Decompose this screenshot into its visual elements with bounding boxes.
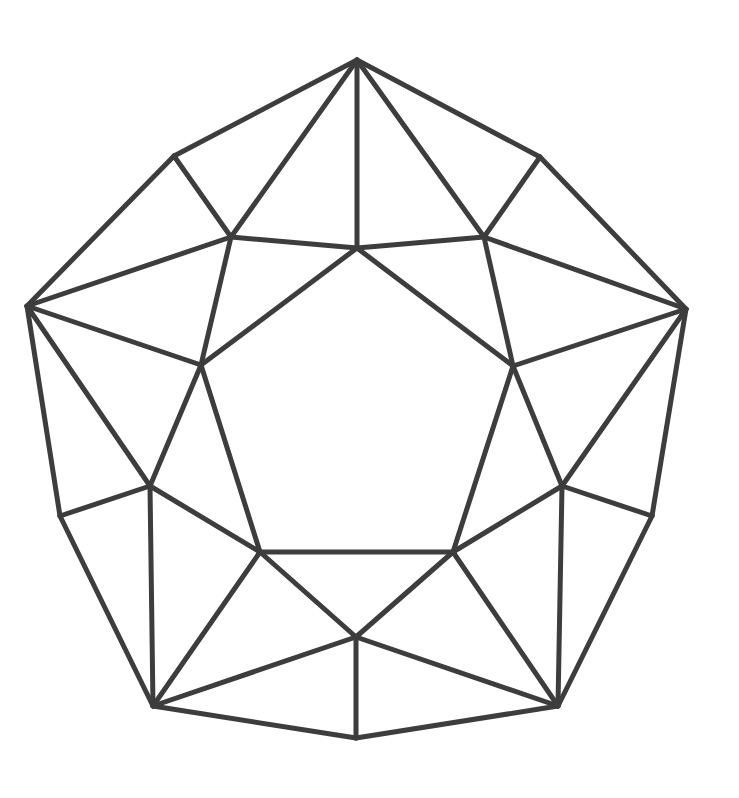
edge-A1-A3 — [231, 237, 357, 248]
edge-UR-R — [540, 157, 686, 309]
edge-MR-BR — [558, 516, 652, 706]
edge-T-UL — [174, 60, 357, 156]
edge-BL-E — [153, 637, 356, 706]
edge-UR-A2 — [484, 157, 540, 237]
edge-ML-C1 — [60, 486, 150, 516]
polyhedron-svg — [0, 0, 739, 798]
edge-L-C1 — [27, 306, 150, 486]
edge-B2-D2 — [453, 366, 513, 552]
edge-A3-A2 — [357, 237, 484, 248]
edge-B2-C2 — [513, 366, 562, 486]
edge-BL-B — [153, 706, 356, 738]
edge-T-A1 — [231, 60, 357, 237]
edge-MR-C2 — [562, 486, 652, 516]
edge-group — [27, 60, 686, 738]
edge-L-ML — [27, 306, 60, 516]
edge-R-C2 — [562, 309, 686, 486]
edge-D1-BL — [153, 552, 260, 706]
edge-L-B1 — [27, 306, 201, 365]
edge-T-A2 — [357, 60, 484, 237]
edge-R-B2 — [513, 309, 686, 366]
edge-R-MR — [652, 309, 686, 516]
edge-BR-B — [356, 706, 558, 738]
edge-B1-C1 — [150, 365, 201, 486]
edge-R-A2 — [484, 237, 686, 309]
edge-C2-BR — [558, 486, 562, 706]
edge-BR-E — [356, 637, 558, 706]
edge-T-UR — [357, 60, 540, 157]
edge-D2-E — [356, 552, 453, 637]
edge-UL-A1 — [174, 156, 231, 237]
edge-D1-E — [260, 552, 356, 637]
edge-D2-BR — [453, 552, 558, 706]
edge-C1-BL — [150, 486, 153, 706]
polyhedron-diagram — [0, 0, 739, 798]
edge-ML-BL — [60, 516, 153, 706]
